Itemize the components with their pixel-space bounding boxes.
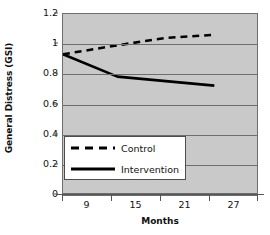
y-axis-title-text: General Distress (GSI) xyxy=(4,43,14,154)
y-axis-tick-mark xyxy=(54,133,58,134)
y-axis-title: General Distress (GSI) xyxy=(0,0,18,196)
legend-item-intervention: Intervention xyxy=(65,158,185,180)
y-axis-tick-label: 0.2 xyxy=(24,159,58,169)
y-axis-tick-mark xyxy=(54,103,58,104)
x-axis-tick-label: 9 xyxy=(83,200,89,210)
y-axis-tick-mark xyxy=(54,13,58,14)
y-axis-tick-label: 0.4 xyxy=(24,129,58,139)
x-axis-title: Months xyxy=(62,216,258,226)
y-axis-tick-label: 1.2 xyxy=(24,8,58,18)
legend-label-intervention: Intervention xyxy=(121,164,179,175)
gridline xyxy=(63,44,257,45)
y-axis-tick-mark xyxy=(54,43,58,44)
legend-label-control: Control xyxy=(121,143,155,154)
solid-line-icon xyxy=(70,163,116,175)
x-axis-tick-labels: 9152127 xyxy=(62,200,258,214)
y-axis-tick-label: 1 xyxy=(24,38,58,48)
chart-legend: Control Intervention xyxy=(64,136,186,180)
y-axis-tick-mark xyxy=(54,163,58,164)
gridline xyxy=(63,74,257,75)
x-axis-tick-label: 21 xyxy=(178,200,190,210)
x-axis-tick-label: 27 xyxy=(227,200,239,210)
gridline xyxy=(63,105,257,106)
y-axis-tick-mark xyxy=(54,73,58,74)
y-axis-tick-labels: 1.210.80.60.40.20 xyxy=(20,0,58,196)
legend-item-control: Control xyxy=(65,137,185,159)
line-chart: General Distress (GSI) 1.210.80.60.40.20… xyxy=(0,0,270,235)
y-axis-tick-label: 0.8 xyxy=(24,69,58,79)
dashed-line-icon xyxy=(70,142,116,154)
series-line-intervention xyxy=(63,54,214,85)
y-axis-tick-label: 0.6 xyxy=(24,99,58,109)
x-axis-tick-label: 15 xyxy=(129,200,141,210)
y-axis-tick-label: 0 xyxy=(24,189,58,199)
